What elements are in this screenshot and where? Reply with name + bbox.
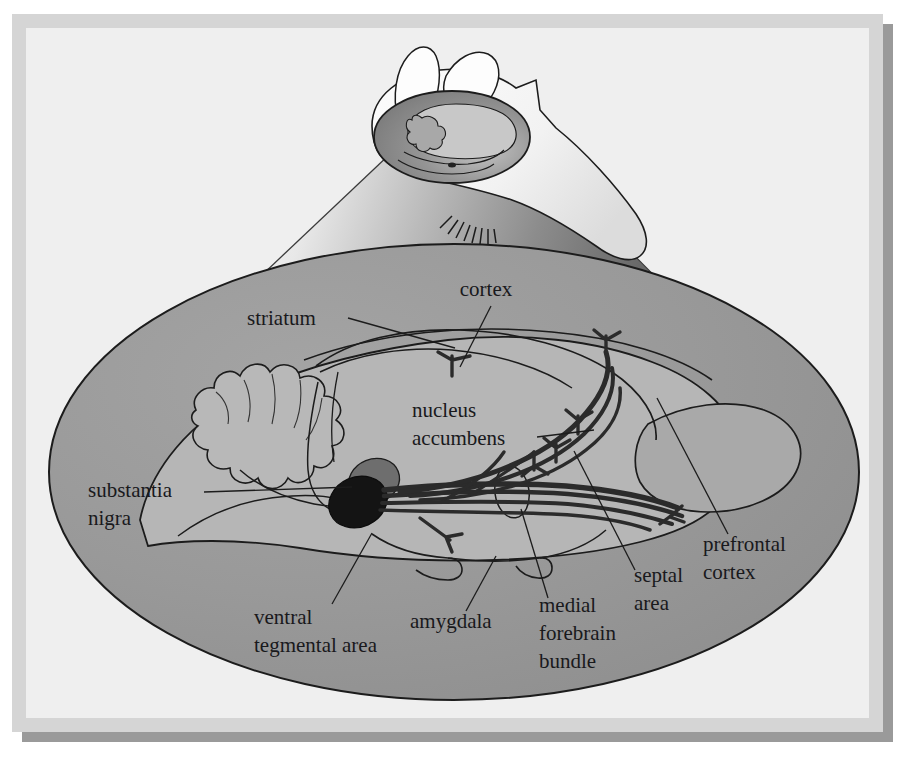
label-nucleus-accumbens-line2: accumbens [412,426,505,450]
label-substantia-nigra-line1: substantia [88,478,173,502]
label-nucleus-accumbens-line1: nucleus [412,398,476,422]
label-medial-forebrain-bundle-line3: bundle [539,649,596,673]
label-cortex: cortex [460,277,513,301]
label-prefrontal-cortex-line2: cortex [703,560,756,584]
mini-vta-dot [448,163,456,168]
brain-pathway-figure: cortex striatum nucleus accumbens substa… [0,0,903,772]
label-ventral-tegmental-area-line1: ventral [254,605,312,629]
label-septal-area-line2: area [634,591,670,615]
label-substantia-nigra-line2: nigra [88,506,132,530]
label-striatum: striatum [247,306,316,330]
label-medial-forebrain-bundle-line2: forebrain [539,621,616,645]
label-septal-area-line1: septal [634,563,683,587]
label-ventral-tegmental-area-line2: tegmental area [254,633,378,657]
figure-root: cortex striatum nucleus accumbens substa… [0,0,903,772]
label-medial-forebrain-bundle-line1: medial [539,593,596,617]
label-prefrontal-cortex-line1: prefrontal [703,532,786,556]
label-amygdala: amygdala [410,609,492,633]
